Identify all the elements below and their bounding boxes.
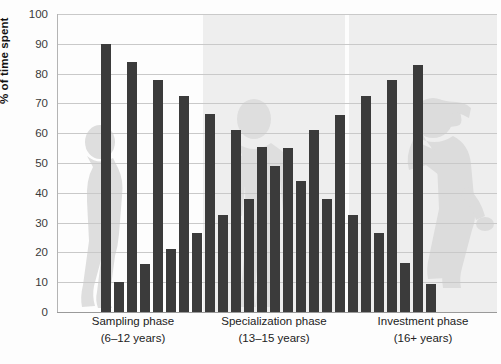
bar [127,62,137,312]
bar [296,181,306,312]
y-tick-label-0: 0 [0,306,48,318]
bar [322,199,332,312]
bar [192,233,202,312]
gridline-90 [57,44,497,45]
bar [374,233,384,312]
bar [400,263,410,312]
y-axis-line [57,14,58,312]
bar [413,65,423,312]
bar [309,130,319,312]
bar [114,282,124,312]
y-tick-label-20: 20 [0,246,48,258]
bar [101,44,111,312]
y-tick-label-60: 60 [0,127,48,139]
bar [348,215,358,312]
y-tick-label-10: 10 [0,276,48,288]
bar [426,284,436,312]
gridline-60 [57,133,497,134]
bar [387,80,397,312]
bar [179,96,189,312]
gridline-100 [57,14,497,15]
bar [244,199,254,312]
phase-label-sampling: Sampling phase (6–12 years) [63,313,203,347]
gridline-80 [57,74,497,75]
bar [153,80,163,312]
plot-area: 100 90 80 70 60 50 40 30 20 10 0 [57,14,497,312]
bar [361,96,371,312]
phase-name-investment: Investment phase [378,315,469,327]
phase-label-specialization: Specialization phase (13–15 years) [203,313,345,347]
bar [335,115,345,312]
phase-name-sampling: Sampling phase [92,315,174,327]
phase-age-sampling: (6–12 years) [63,330,203,347]
chart-figure: 100 90 80 70 60 50 40 30 20 10 0 % of ti… [0,0,501,364]
gridline-50 [57,163,497,164]
bar [270,166,280,312]
phase-label-investment: Investment phase (16+ years) [349,313,497,347]
bar [257,147,267,312]
phase-captions: Sampling phase (6–12 years) Specializati… [57,313,497,363]
bar [218,215,228,312]
bar [283,148,293,312]
phase-age-specialization: (13–15 years) [203,330,345,347]
bar [166,249,176,312]
y-tick-label-30: 30 [0,217,48,229]
bar [205,114,215,312]
phase-age-investment: (16+ years) [349,330,497,347]
y-tick-label-40: 40 [0,187,48,199]
y-axis-title: % of time spent [0,0,10,104]
y-tick-label-50: 50 [0,157,48,169]
bar [140,264,150,312]
gridline-70 [57,103,497,104]
bar [231,130,241,312]
phase-name-specialization: Specialization phase [221,315,327,327]
